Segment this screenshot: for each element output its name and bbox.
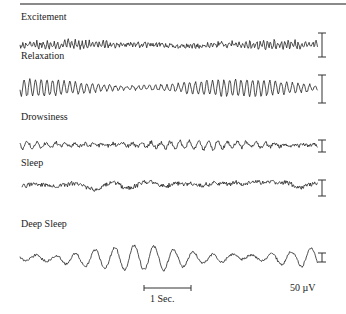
amplitude-scale-bar bbox=[318, 253, 326, 262]
amplitude-scale-bar bbox=[318, 75, 326, 103]
trace-sleep bbox=[22, 180, 317, 191]
amplitude-scale-bar bbox=[318, 180, 326, 196]
trace-relaxation bbox=[20, 79, 318, 97]
time-scale-bar bbox=[144, 285, 191, 291]
time-scale-label: 1 Sec. bbox=[150, 293, 174, 304]
eeg-traces bbox=[0, 0, 346, 314]
trace-excitement bbox=[20, 39, 318, 50]
amplitude-scale-bar bbox=[318, 33, 326, 57]
amplitude-scale-bar bbox=[318, 140, 326, 152]
trace-deep-sleep bbox=[20, 245, 318, 271]
trace-drowsiness bbox=[20, 140, 318, 151]
amplitude-scale-label: 50 µV bbox=[290, 282, 315, 293]
